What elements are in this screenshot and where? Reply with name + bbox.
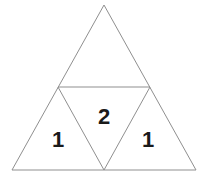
middle-triangle-label: 2 — [92, 106, 116, 128]
canvas-background — [0, 0, 210, 190]
triangle-diagram-svg — [0, 0, 210, 190]
triangle-figure: 1 2 1 — [0, 0, 210, 190]
bottom-right-triangle-label: 1 — [136, 129, 160, 151]
bottom-left-triangle-label: 1 — [46, 129, 70, 151]
